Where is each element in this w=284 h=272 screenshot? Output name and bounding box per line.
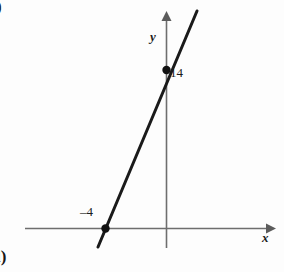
- coordinate-plane: [0, 0, 284, 272]
- y-intercept-label: 14: [170, 66, 183, 79]
- y-axis-arrowhead: [162, 11, 172, 21]
- x-axis-label: x: [262, 231, 269, 244]
- corner-mark-top-left: ): [0, 0, 2, 15]
- y-axis-label: y: [150, 30, 156, 43]
- graph-figure: y x 14 –4 ) l): [0, 0, 284, 272]
- x-intercept-label: –4: [80, 205, 93, 218]
- corner-mark-bottom-left: l): [0, 248, 6, 265]
- x-intercept-marker: [101, 224, 109, 232]
- plotted-line: [98, 11, 197, 247]
